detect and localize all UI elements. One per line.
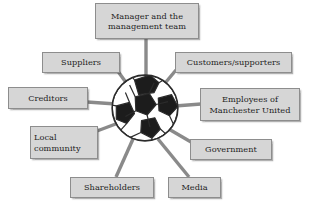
stakeholder-diagram: Manager and the management team Supplier… xyxy=(0,0,311,215)
node-customers-supporters[interactable]: Customers/supporters xyxy=(175,52,292,73)
connector-shareholders xyxy=(116,139,133,177)
node-creditors-label: Creditors xyxy=(12,93,84,103)
football-icon xyxy=(110,73,180,143)
node-local-community-line1: Local xyxy=(34,132,94,142)
node-manager-line1: Manager and the xyxy=(99,11,195,21)
node-shareholders-label: Shareholders xyxy=(74,182,150,192)
node-employees[interactable]: Employees of Manchester United xyxy=(200,88,300,121)
node-employees-line2: Manchester United xyxy=(204,105,296,115)
node-manager-line2: management team xyxy=(99,21,195,31)
node-shareholders[interactable]: Shareholders xyxy=(70,177,154,198)
node-government[interactable]: Government xyxy=(190,139,272,160)
node-media-label: Media xyxy=(172,182,217,192)
node-media[interactable]: Media xyxy=(168,177,221,198)
node-creditors[interactable]: Creditors xyxy=(8,87,88,109)
node-manager[interactable]: Manager and the management team xyxy=(95,3,199,39)
node-local-community-line2: community xyxy=(34,143,94,153)
node-suppliers-label: Suppliers xyxy=(46,57,116,67)
node-local-community[interactable]: Local community xyxy=(30,126,98,159)
node-government-label: Government xyxy=(194,144,268,154)
connector-media xyxy=(158,139,189,177)
node-customers-supporters-label: Customers/supporters xyxy=(179,57,288,67)
node-suppliers[interactable]: Suppliers xyxy=(42,52,120,73)
node-employees-line1: Employees of xyxy=(204,94,296,104)
